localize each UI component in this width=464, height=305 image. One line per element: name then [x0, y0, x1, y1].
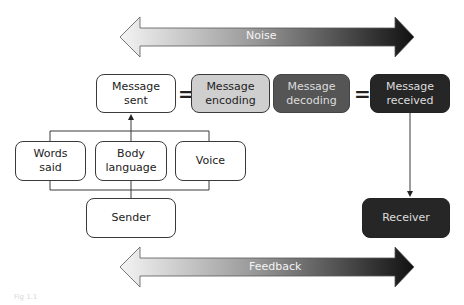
- sender-box: Sender: [86, 198, 176, 238]
- voice-box: Voice: [175, 141, 246, 181]
- figure-caption: Fig 1.1: [14, 293, 37, 301]
- message-decoding-box: Message decoding: [273, 74, 350, 113]
- equals-sign: =: [354, 84, 371, 104]
- body-language-box: Body language: [95, 141, 167, 181]
- words-said-box: Words said: [15, 141, 86, 181]
- feedback-label: Feedback: [249, 261, 301, 273]
- message-sent-box: Message sent: [96, 74, 176, 113]
- message-encoding-box: Message encoding: [191, 74, 270, 113]
- receiver-box: Receiver: [362, 198, 450, 238]
- message-received-box: Message received: [370, 74, 450, 113]
- noise-label: Noise: [246, 30, 277, 42]
